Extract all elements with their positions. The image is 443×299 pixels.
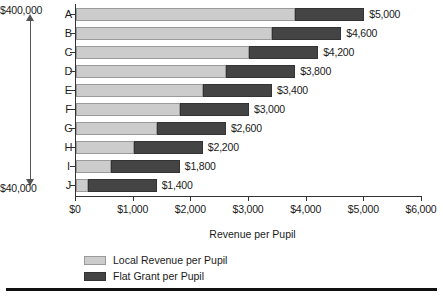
- bar-segment-flat-grant[interactable]: [134, 141, 203, 154]
- x-tick: [190, 196, 191, 201]
- bar-row: $3,000: [76, 100, 422, 119]
- legend-label-local-revenue: Local Revenue per Pupil: [113, 254, 227, 266]
- x-tick: [248, 196, 249, 201]
- bar-segment-local-revenue[interactable]: [76, 46, 249, 59]
- bar-segment-local-revenue[interactable]: [76, 122, 157, 135]
- bar-row: $4,600: [76, 24, 422, 43]
- stacked-bar-a[interactable]: [76, 8, 364, 21]
- bar-segment-flat-grant[interactable]: [180, 103, 249, 116]
- y-tick-b: [70, 33, 75, 34]
- bar-value-label: $5,000: [369, 7, 400, 21]
- bar-value-label: $3,800: [300, 64, 331, 78]
- chart-plot-area: A B C D E F G H I J $5,000$4,600$4,200$3…: [62, 0, 443, 200]
- bar-segment-local-revenue[interactable]: [76, 103, 180, 116]
- bar-value-label: $3,400: [277, 83, 308, 97]
- stacked-bar-i[interactable]: [76, 160, 180, 173]
- stacked-bar-b[interactable]: [76, 27, 341, 40]
- chart-legend: Local Revenue per Pupil Flat Grant per P…: [84, 253, 227, 285]
- bar-segment-local-revenue[interactable]: [76, 141, 134, 154]
- x-tick-label: $6,000: [406, 203, 437, 215]
- y-tick-i: [70, 166, 75, 167]
- bar-row: $1,400: [76, 176, 422, 195]
- bar-segment-flat-grant[interactable]: [272, 27, 341, 40]
- stacked-bar-f[interactable]: [76, 103, 249, 116]
- x-tick: [363, 196, 364, 201]
- x-tick-label: $2,000: [175, 203, 206, 215]
- legend-item-local-revenue: Local Revenue per Pupil: [84, 253, 227, 267]
- bar-segment-flat-grant[interactable]: [295, 8, 364, 21]
- bar-segment-local-revenue[interactable]: [76, 84, 203, 97]
- y-tick-h: [70, 147, 75, 148]
- x-tick: [421, 196, 422, 201]
- bar-row: $4,200: [76, 43, 422, 62]
- stacked-bar-e[interactable]: [76, 84, 272, 97]
- bar-segment-local-revenue[interactable]: [76, 27, 272, 40]
- stacked-bar-g[interactable]: [76, 122, 226, 135]
- y-tick-d: [70, 71, 75, 72]
- bar-row: $2,200: [76, 138, 422, 157]
- y-tick-j: [70, 185, 75, 186]
- bar-value-label: $2,200: [208, 140, 239, 154]
- stacked-bar-h[interactable]: [76, 141, 203, 154]
- x-tick: [306, 196, 307, 201]
- legend-label-flat-grant: Flat Grant per Pupil: [113, 270, 204, 282]
- bar-segment-local-revenue[interactable]: [76, 8, 295, 21]
- wealth-axis-bottom-label: $40,000: [0, 182, 60, 194]
- bar-value-label: $4,200: [323, 45, 354, 59]
- y-tick-e: [70, 90, 75, 91]
- stacked-bar-c[interactable]: [76, 46, 318, 59]
- y-tick-g: [70, 128, 75, 129]
- bar-row: $3,800: [76, 62, 422, 81]
- x-tick-label: $3,000: [233, 203, 264, 215]
- x-axis: $0$1,000$2,000$3,000$4,000$5,000$6,000: [75, 196, 421, 222]
- bars-area: $5,000$4,600$4,200$3,800$3,400$3,000$2,6…: [76, 0, 443, 196]
- bar-segment-flat-grant[interactable]: [111, 160, 180, 173]
- bar-value-label: $3,000: [254, 102, 285, 116]
- x-tick-label: $1,000: [117, 203, 148, 215]
- bar-segment-local-revenue[interactable]: [76, 179, 88, 192]
- bottom-divider: [6, 288, 437, 291]
- bar-segment-flat-grant[interactable]: [157, 122, 226, 135]
- bar-segment-flat-grant[interactable]: [203, 84, 272, 97]
- bar-row: $2,600: [76, 119, 422, 138]
- bar-value-label: $1,800: [185, 159, 216, 173]
- x-axis-title: Revenue per Pupil: [62, 228, 443, 240]
- bar-value-label: $2,600: [231, 121, 262, 135]
- x-tick: [75, 196, 76, 201]
- x-tick-label: $4,000: [290, 203, 321, 215]
- bar-row: $5,000: [76, 5, 422, 24]
- legend-swatch-local-revenue: [84, 256, 106, 265]
- y-tick-a: [70, 14, 75, 15]
- bar-segment-flat-grant[interactable]: [249, 46, 318, 59]
- x-tick-label: $5,000: [348, 203, 379, 215]
- property-wealth-axis: $400,000 $40,000: [0, 0, 62, 200]
- legend-swatch-flat-grant: [84, 272, 106, 281]
- bar-segment-flat-grant[interactable]: [88, 179, 157, 192]
- bar-row: $3,400: [76, 81, 422, 100]
- bar-segment-local-revenue[interactable]: [76, 65, 226, 78]
- x-tick: [133, 196, 134, 201]
- wealth-axis-line: [30, 20, 31, 185]
- bar-row: $1,800: [76, 157, 422, 176]
- x-tick-label: $0: [69, 203, 80, 215]
- stacked-bar-d[interactable]: [76, 65, 295, 78]
- bar-segment-flat-grant[interactable]: [226, 65, 295, 78]
- legend-item-flat-grant: Flat Grant per Pupil: [84, 269, 227, 283]
- bar-segment-local-revenue[interactable]: [76, 160, 111, 173]
- y-tick-c: [70, 52, 75, 53]
- stacked-bar-j[interactable]: [76, 179, 157, 192]
- bar-value-label: $4,600: [346, 26, 377, 40]
- y-tick-f: [70, 109, 75, 110]
- bar-value-label: $1,400: [162, 178, 193, 192]
